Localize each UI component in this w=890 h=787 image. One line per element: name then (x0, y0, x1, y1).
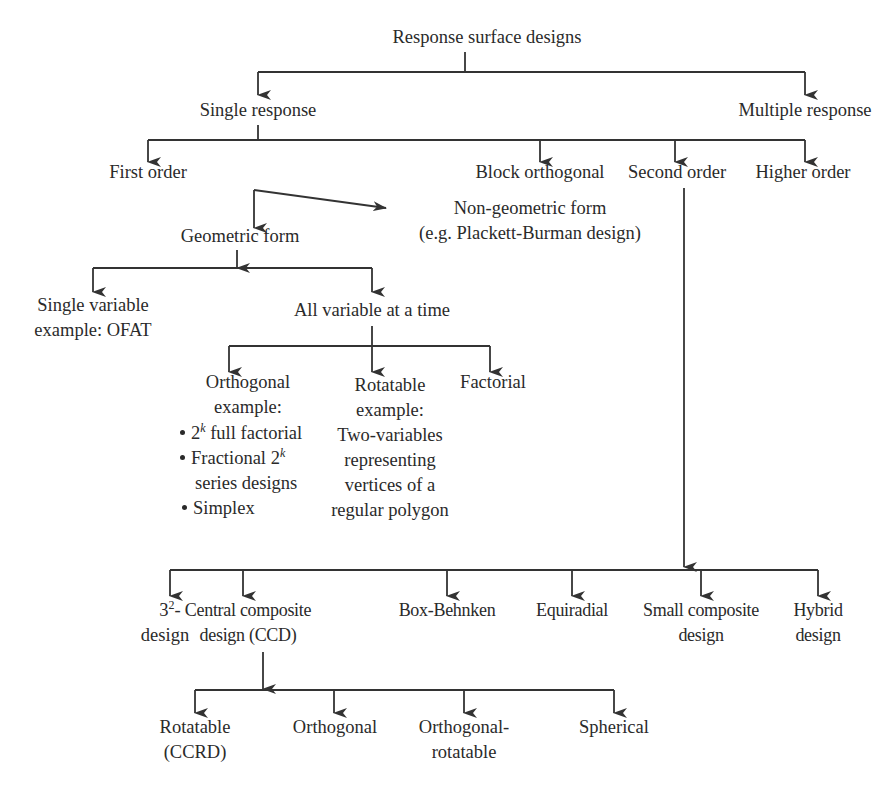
node-block-orthogonal: Block orthogonal (476, 160, 605, 185)
item-text: 2 (191, 423, 200, 443)
node-label: Small composite (643, 598, 759, 623)
node-3-2-design: 32- design (151, 598, 189, 648)
node-label: example: (206, 395, 290, 420)
node-box-behnken: Box-Behnken (399, 598, 496, 623)
node-label: Block orthogonal (476, 160, 605, 185)
node-factorial: Factorial (460, 370, 526, 395)
node-label: example: (331, 398, 449, 423)
node-label: design (CCD) (185, 623, 311, 648)
node-label: Higher order (755, 160, 850, 185)
label-base: 3 (159, 600, 168, 620)
node-label: (e.g. Plackett-Burman design) (419, 221, 641, 246)
list-item: Simplex (180, 496, 302, 521)
node-label: Orthogonal (293, 715, 377, 740)
node-orthogonal-example: Orthogonal example: (206, 370, 290, 420)
node-label: example: OFAT (34, 318, 151, 343)
node-response-surface-designs: Response surface designs (392, 25, 581, 50)
superscript: k (280, 446, 285, 460)
node-spherical: Spherical (579, 715, 649, 740)
node-label: Hybrid (793, 598, 842, 623)
node-label: Non-geometric form (419, 196, 641, 221)
node-label: Response surface designs (392, 25, 581, 50)
node-single-response: Single response (200, 98, 317, 123)
node-geometric-form: Geometric form (181, 224, 300, 249)
node-second-order: Second order (628, 160, 726, 185)
node-label: Spherical (579, 715, 649, 740)
node-label: Second order (628, 160, 726, 185)
node-multiple-response: Multiple response (738, 98, 871, 123)
node-label: Two-variables (331, 423, 449, 448)
node-orthogonal-rotatable: Orthogonal- rotatable (419, 715, 509, 765)
node-label: Single variable (34, 293, 151, 318)
node-rotatable-example: Rotatable example: Two-variables represe… (331, 373, 449, 523)
list-item-continuation: series designs (180, 471, 302, 496)
node-all-variable-at-a-time: All variable at a time (294, 298, 450, 323)
node-label: Multiple response (738, 98, 871, 123)
bullet-icon (182, 505, 187, 510)
item-text: Fractional 2 (191, 448, 280, 468)
item-text: full factorial (206, 423, 303, 443)
node-small-composite-design: Small composite design (643, 598, 759, 648)
node-label: Box-Behnken (399, 598, 496, 623)
node-label: Orthogonal- (419, 715, 509, 740)
node-central-composite-design: Central composite design (CCD) (185, 598, 311, 648)
node-non-geometric-form: Non-geometric form (e.g. Plackett-Burman… (419, 196, 641, 246)
item-text: Simplex (193, 498, 255, 518)
node-label: Equiradial (536, 598, 608, 623)
orthogonal-examples-list: 2k full factorial Fractional 2k series d… (180, 421, 302, 521)
node-single-variable: Single variable example: OFAT (34, 293, 151, 343)
node-label: (CCRD) (160, 740, 231, 765)
node-label: representing (331, 448, 449, 473)
bullet-icon (180, 430, 185, 435)
label-suffix: - (175, 600, 181, 620)
list-item: Fractional 2k (180, 446, 302, 471)
node-label: design (793, 623, 842, 648)
node-rotatable-ccrd: Rotatable (CCRD) (160, 715, 231, 765)
node-label: Rotatable (331, 373, 449, 398)
node-label: Rotatable (160, 715, 231, 740)
node-label: 32- (151, 598, 189, 623)
node-label: Central composite (185, 598, 311, 623)
bullet-icon (180, 455, 185, 460)
node-orthogonal: Orthogonal (293, 715, 377, 740)
node-label: design (643, 623, 759, 648)
node-label: Geometric form (181, 224, 300, 249)
node-label: design (141, 623, 189, 648)
node-hybrid-design: Hybrid design (793, 598, 842, 648)
node-label: regular polygon (331, 498, 449, 523)
node-label: Orthogonal (206, 370, 290, 395)
node-label: vertices of a (331, 473, 449, 498)
node-label: First order (109, 160, 187, 185)
node-equiradial: Equiradial (536, 598, 608, 623)
node-label: Factorial (460, 370, 526, 395)
node-label: rotatable (419, 740, 509, 765)
node-first-order: First order (109, 160, 187, 185)
node-label: All variable at a time (294, 298, 450, 323)
list-item: 2k full factorial (180, 421, 302, 446)
item-text: series designs (195, 473, 297, 493)
arrow-to-non-geometric (254, 190, 386, 208)
node-higher-order: Higher order (755, 160, 850, 185)
node-label: Single response (200, 98, 317, 123)
